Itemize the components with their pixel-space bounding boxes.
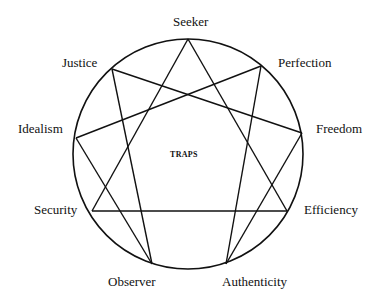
edge-seeker-security — [92, 39, 188, 211]
label-efficiency: Efficiency — [304, 203, 358, 216]
label-freedom: Freedom — [316, 122, 362, 135]
label-observer: Observer — [108, 275, 156, 288]
label-idealism: Idealism — [18, 122, 63, 135]
label-justice: Justice — [62, 56, 97, 69]
label-perfection: Perfection — [278, 56, 331, 69]
center-label: TRAPS — [170, 150, 198, 159]
edge-justice-observer — [112, 69, 152, 264]
label-seeker: Seeker — [173, 15, 208, 28]
label-authenticity: Authenticity — [222, 275, 287, 288]
edge-idealism-observer — [76, 138, 152, 264]
label-security: Security — [34, 203, 77, 216]
